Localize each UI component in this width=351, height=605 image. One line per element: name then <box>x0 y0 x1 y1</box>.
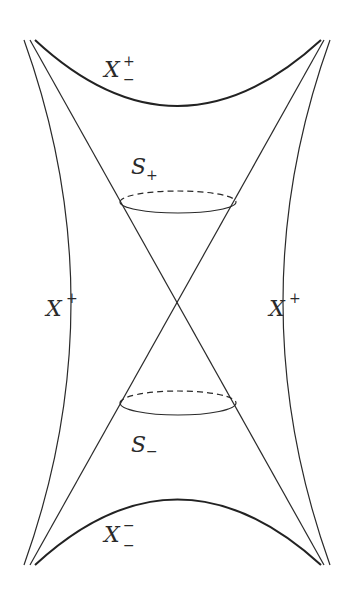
label-left-boundary: X + <box>44 290 78 321</box>
top-boundary-curve <box>35 40 321 106</box>
lower-sphere-front-solid <box>120 403 236 415</box>
upper-sphere-back-dashed <box>120 191 236 202</box>
upper-sphere-front-solid <box>120 202 236 213</box>
bottom-boundary-curve <box>35 500 321 566</box>
upper-sphere <box>120 191 236 213</box>
label-bottom-boundary: X − − <box>102 517 135 553</box>
svg-text:−: − <box>146 443 158 459</box>
label-lower-sphere: S − <box>131 432 158 459</box>
label-right-boundary: X + <box>267 290 301 321</box>
svg-text:+: + <box>146 167 158 183</box>
svg-text:+: + <box>289 290 301 306</box>
svg-text:−: − <box>123 517 135 533</box>
svg-text:+: + <box>66 290 78 306</box>
svg-text:−: − <box>123 71 135 87</box>
svg-text:X: X <box>102 57 121 82</box>
label-upper-sphere: S + <box>131 154 158 183</box>
svg-text:X: X <box>267 296 286 321</box>
svg-text:+: + <box>123 53 135 69</box>
lower-sphere <box>120 391 236 415</box>
spacetime-diagram: X + − S + X + X + S − X − − <box>0 0 351 605</box>
svg-text:S: S <box>131 432 146 457</box>
svg-text:−: − <box>123 537 135 553</box>
svg-text:X: X <box>44 296 63 321</box>
svg-text:S: S <box>131 154 146 179</box>
svg-text:X: X <box>102 522 121 547</box>
lower-sphere-back-dashed <box>120 391 236 403</box>
label-top-boundary: X + − <box>102 53 135 87</box>
